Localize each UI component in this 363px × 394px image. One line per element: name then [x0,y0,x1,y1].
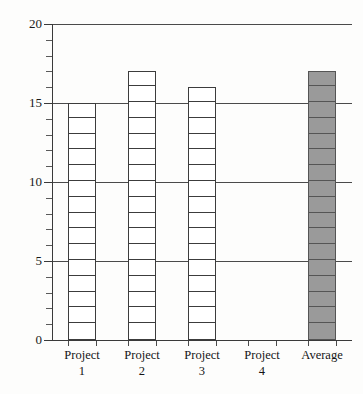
bar-project-3 [188,87,216,340]
category-number: 4 [244,364,279,380]
category-name: Project [64,348,99,364]
plot-area: 05101520 [52,24,352,340]
bar-segment-divider [69,259,95,260]
bar-segment-divider [189,291,215,292]
bar-average [308,71,336,340]
bar-segment-divider [69,275,95,276]
bar-segment-divider [69,227,95,228]
y-axis-major-tick-20 [44,24,52,25]
bar-segment-divider [129,227,155,228]
y-axis-tick-label-5: 5 [36,254,43,267]
bar-segment-divider [129,85,155,86]
bar-segment-divider [189,275,215,276]
bar-segment-divider [309,243,335,244]
bar-segment-divider [69,117,95,118]
bar-segment-divider [129,212,155,213]
bar-segment-divider [189,227,215,228]
bar-segment-divider [189,180,215,181]
gridline-y-20 [52,24,352,25]
x-axis-category-label-3: Project3 [184,348,219,379]
bar-segment-divider [129,148,155,149]
bar-segment-divider [189,259,215,260]
bar-segment-divider [189,148,215,149]
bar-segment-divider [129,164,155,165]
y-axis-major-tick-10 [44,182,52,183]
y-axis-line [52,24,53,340]
x-axis-category-label-1: Project1 [64,348,99,379]
bar-segment-divider [129,180,155,181]
bar-segment-divider [189,164,215,165]
y-axis-tick-label-15: 15 [29,96,42,109]
bar-segment-divider [309,101,335,102]
bar-project-1 [68,103,96,340]
bar-segment-divider [189,117,215,118]
bar-segment-divider [69,180,95,181]
bar-segment-divider [309,275,335,276]
bar-segment-divider [309,85,335,86]
x-axis-category-label-2: Project2 [124,348,159,379]
bar-segment-divider [309,306,335,307]
x-axis-category-label-5: Average [301,348,342,364]
bar-segment-divider [69,306,95,307]
bar-segment-divider [129,306,155,307]
category-name: Project [184,348,219,364]
bar-segment-divider [69,164,95,165]
bar-segment-divider [309,227,335,228]
category-name: Average [301,348,342,364]
bar-segment-divider [129,101,155,102]
bar-segment-divider [129,243,155,244]
y-axis-major-tick-5 [44,261,52,262]
bar-project-2 [128,71,156,340]
category-number: 1 [64,364,99,380]
bar-segment-divider [69,196,95,197]
bar-segment-divider [189,306,215,307]
bar-segment-divider [309,133,335,134]
bar-segment-divider [309,180,335,181]
x-axis-line [52,340,352,341]
bar-segment-divider [129,196,155,197]
category-name: Project [124,348,159,364]
bar-segment-divider [129,259,155,260]
bar-segment-divider [309,291,335,292]
bar-segment-divider [129,275,155,276]
bar-segment-divider [69,322,95,323]
bar-segment-divider [69,291,95,292]
bar-segment-divider [69,243,95,244]
category-number: 3 [184,364,219,380]
category-name: Project [244,348,279,364]
bar-segment-divider [309,259,335,260]
bar-segment-divider [129,291,155,292]
y-axis-tick-label-20: 20 [29,17,42,30]
bar-segment-divider [309,148,335,149]
bar-segment-divider [309,322,335,323]
bar-segment-divider [69,133,95,134]
bar-segment-divider [309,212,335,213]
bar-segment-divider [129,117,155,118]
bar-segment-divider [129,133,155,134]
bar-segment-divider [129,322,155,323]
y-axis-tick-label-0: 0 [36,333,43,346]
category-number: 2 [124,364,159,380]
bar-segment-divider [189,196,215,197]
bar-segment-divider [69,148,95,149]
bar-segment-divider [189,133,215,134]
x-axis-category-label-4: Project4 [244,348,279,379]
bar-segment-divider [189,101,215,102]
y-axis-tick-label-10: 10 [29,175,42,188]
bar-segment-divider [189,212,215,213]
bar-segment-divider [69,212,95,213]
bar-chart: 05101520 Project1Project2Project3Project… [0,0,363,394]
bar-segment-divider [309,164,335,165]
bar-segment-divider [309,196,335,197]
bar-segment-divider [189,243,215,244]
y-axis-major-tick-15 [44,103,52,104]
bar-segment-divider [309,117,335,118]
y-axis-major-tick-0 [44,340,52,341]
bar-segment-divider [189,322,215,323]
